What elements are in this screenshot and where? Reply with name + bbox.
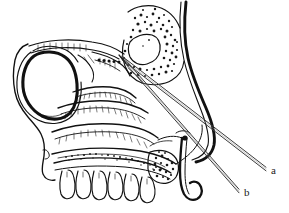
needle-b-label: b bbox=[244, 186, 250, 198]
figure-background bbox=[0, 0, 289, 213]
needle-a-label: a bbox=[271, 164, 276, 176]
anatomy-illustration: a b bbox=[0, 0, 289, 213]
anatomy-figure: a b bbox=[0, 0, 289, 213]
